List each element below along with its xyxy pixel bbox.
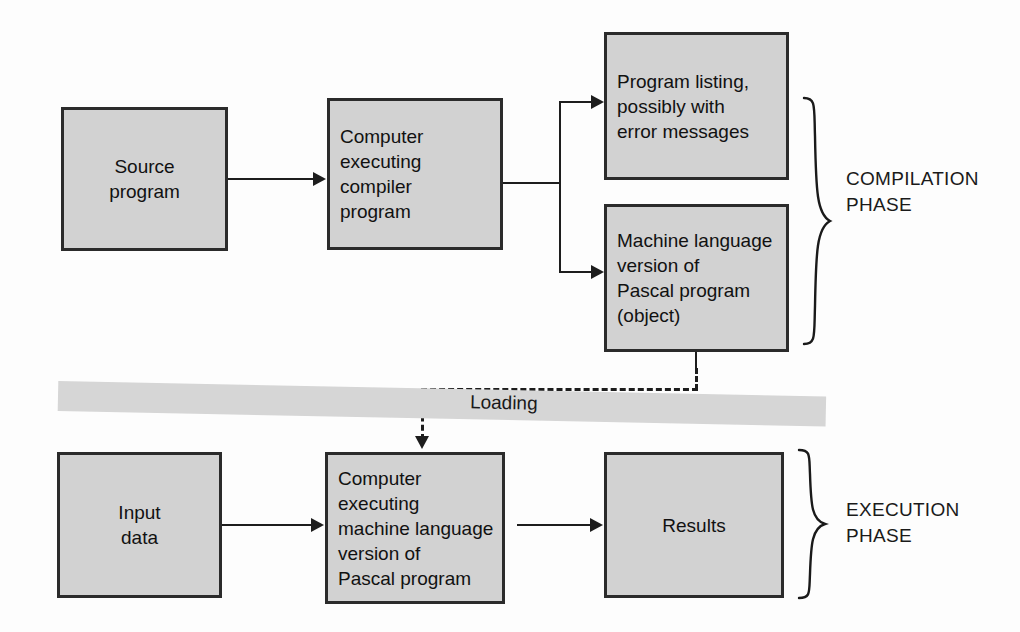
- arrowhead-bus-to-machine: [591, 265, 604, 279]
- label-execution-phase: EXECUTION PHASE: [846, 497, 960, 549]
- connector-source-to-compiler: [228, 178, 314, 180]
- loading-band: [58, 381, 826, 426]
- box-machine-executor-label: Computer executing machine language vers…: [338, 466, 538, 591]
- box-program-listing: Program listing, possibly with error mes…: [604, 32, 789, 180]
- diagram-canvas: Source program Computer executing compil…: [0, 0, 1020, 632]
- box-program-listing-label: Program listing, possibly with error mes…: [617, 69, 749, 144]
- arrowhead-bus-to-listing: [591, 95, 604, 109]
- dashed-drop-right: [695, 368, 698, 390]
- box-source-program: Source program: [61, 107, 228, 251]
- box-machine-executor: Computer executing machine language vers…: [325, 452, 505, 604]
- label-compilation-phase: COMPILATION PHASE: [846, 166, 979, 218]
- box-input-data-label: Input data: [118, 500, 160, 550]
- box-source-program-label: Source program: [109, 154, 180, 204]
- box-machine-language-version-label: Machine language version of Pascal progr…: [617, 228, 772, 328]
- box-results-label: Results: [662, 513, 725, 538]
- arrowhead-source-to-compiler: [313, 172, 326, 186]
- arrowhead-executor-to-results: [590, 518, 603, 532]
- arrowhead-loading-into-executor: [415, 436, 429, 449]
- connector-compiler-out: [503, 182, 561, 184]
- box-results: Results: [604, 452, 784, 598]
- connector-split-bus: [559, 101, 561, 273]
- arrowhead-input-to-executor: [311, 518, 324, 532]
- box-compiler-label: Computer executing compiler program: [340, 124, 423, 224]
- connector-input-to-executor: [222, 524, 312, 526]
- box-input-data: Input data: [57, 452, 222, 598]
- box-machine-language-version: Machine language version of Pascal progr…: [604, 204, 789, 352]
- brace-execution-phase: [795, 448, 829, 600]
- connector-executor-to-results: [517, 524, 593, 526]
- box-compiler: Computer executing compiler program: [327, 98, 503, 250]
- loading-band-label: Loading: [470, 391, 538, 414]
- brace-compilation-phase: [800, 96, 834, 346]
